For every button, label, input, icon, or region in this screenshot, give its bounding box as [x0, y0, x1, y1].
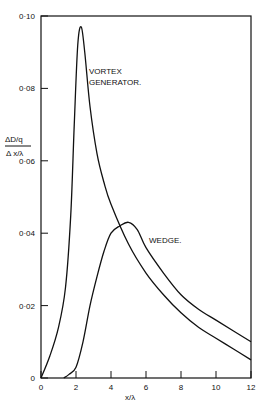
x-tick-label: 2	[74, 383, 79, 392]
curves	[41, 27, 251, 378]
x-tick-label: 0	[39, 383, 44, 392]
y-tick-label: 0	[31, 374, 36, 383]
y-axis-label-den: Δ x/λ	[6, 149, 23, 158]
y-tick-label: 0·10	[19, 12, 36, 21]
wedge-label: WEDGE.	[149, 236, 181, 245]
y-tick-label: 0·04	[19, 229, 36, 238]
x-tick-label: 6	[144, 383, 149, 392]
x-tick-label: 8	[179, 383, 184, 392]
vortex-label-2: GENERATOR.	[89, 78, 141, 87]
x-tick-label: 4	[109, 383, 114, 392]
y-tick-label: 0·06	[19, 157, 36, 166]
vortex-generator-curve	[41, 27, 251, 378]
vortex-label-1: VORTEX	[89, 67, 122, 76]
y-tick-label: 0·02	[19, 302, 36, 311]
axes	[41, 16, 251, 378]
y-tick-label: 0·08	[19, 84, 36, 93]
chart: 02468101200·020·040·060·080·10 ΔD/q Δ x/…	[0, 0, 267, 406]
tick-labels: 02468101200·020·040·060·080·10	[19, 12, 256, 392]
x-tick-label: 10	[212, 383, 221, 392]
wedge-curve	[64, 222, 251, 378]
y-axis-label-num: ΔD/q	[5, 135, 23, 144]
x-axis-label: x/λ	[125, 393, 135, 402]
plot-frame	[41, 16, 251, 378]
x-tick-label: 12	[247, 383, 256, 392]
